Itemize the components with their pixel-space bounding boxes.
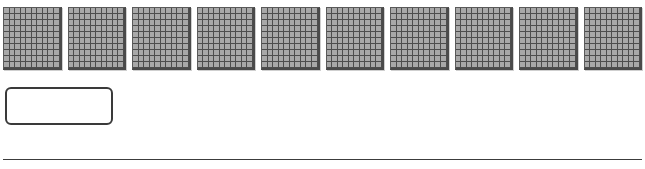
unit-cell [312,62,318,68]
hundred-block [197,7,256,70]
unit-cell [183,62,189,68]
divider-line [3,159,642,160]
hundred-block [3,7,62,70]
answer-input[interactable] [5,87,113,125]
unit-cell [54,62,60,68]
hundred-block [326,7,385,70]
hundred-block [390,7,449,70]
unit-cell [505,62,511,68]
unit-cell [570,62,576,68]
hundred-block [519,7,578,70]
hundred-block [132,7,191,70]
unit-cell [441,62,447,68]
hundred-block [584,7,643,70]
unit-cell [376,62,382,68]
unit-cell [118,62,124,68]
hundred-block [261,7,320,70]
hundred-blocks-row [3,7,642,70]
hundred-block [68,7,127,70]
unit-cell [247,62,253,68]
unit-cell [634,62,640,68]
hundred-block [455,7,514,70]
